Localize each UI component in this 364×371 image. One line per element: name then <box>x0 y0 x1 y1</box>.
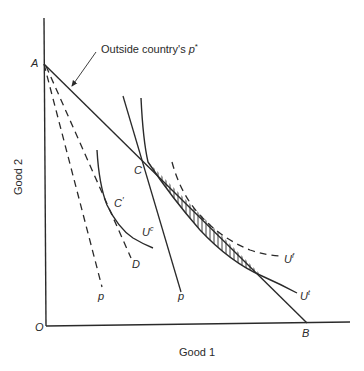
world-price-line-AB <box>44 64 307 323</box>
point-label-D: D <box>132 258 140 270</box>
curve-label-Ut: Ut <box>300 289 311 302</box>
offer-line-AD-dashed <box>46 66 131 258</box>
price-label-p-right: p <box>177 290 184 302</box>
x-axis <box>46 322 350 326</box>
curve-label-Uf: Uf <box>284 252 295 265</box>
price-label-p-left: p <box>97 290 104 302</box>
point-label-C: C <box>134 164 142 176</box>
autarky-price-line-dashed <box>44 64 102 287</box>
point-label-A: A <box>30 57 38 69</box>
y-axis-label: Good 2 <box>12 159 24 195</box>
annotation-leader-arrow <box>72 52 96 86</box>
point-label-B: B <box>302 327 309 339</box>
trade-diagram: A C C′ D B O p p Uc Uf Ut Outside countr… <box>0 0 364 371</box>
curve-label-Uc: Uc <box>142 225 154 238</box>
annotation-outside-country-price: Outside country's p* <box>101 42 198 55</box>
indifference-curve-Ut <box>141 98 297 293</box>
x-axis-label: Good 1 <box>179 346 215 358</box>
origin-label-O: O <box>35 321 44 333</box>
indifference-curve-Uf <box>172 162 283 256</box>
point-label-C-prime: C′ <box>114 195 124 209</box>
